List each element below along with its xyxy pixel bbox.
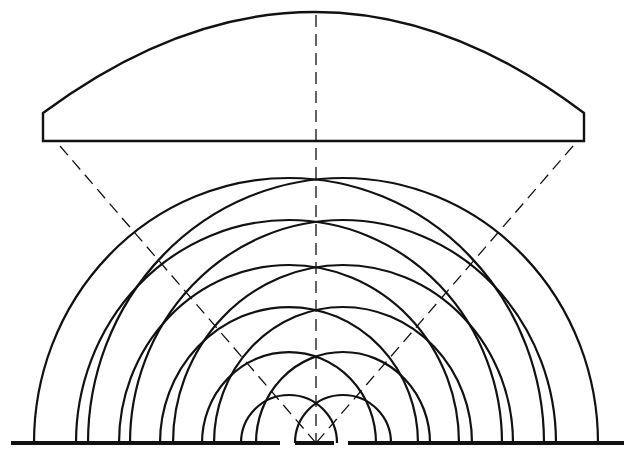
wavefront-arc-right-slit xyxy=(130,220,556,443)
wavefront-arc-right-slit xyxy=(173,265,513,443)
wavefront-arc-right-slit xyxy=(214,307,472,443)
diagram-canvas xyxy=(0,0,632,459)
diagonal-dashed-line xyxy=(60,146,316,443)
lens-shape xyxy=(43,12,584,141)
wavefront-arcs xyxy=(34,178,598,443)
wavefront-arc-left-slit xyxy=(202,352,376,443)
wavefront-arc-left-slit xyxy=(76,220,502,443)
lens-outline xyxy=(43,12,584,141)
diagonal-dashed-line xyxy=(316,146,573,443)
wavefront-arc-right-slit xyxy=(256,352,430,443)
wavefront-arc-left-slit xyxy=(119,265,459,443)
double-slit-diagram xyxy=(0,0,632,459)
wavefront-arc-left-slit xyxy=(160,307,418,443)
